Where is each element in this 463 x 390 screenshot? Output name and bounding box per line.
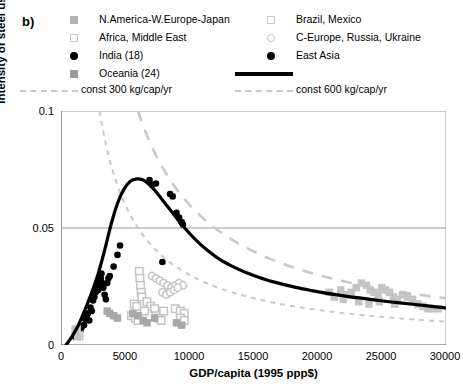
legend-label: const 300 kg/cap/yr xyxy=(81,84,172,95)
legend-label: C-Europe, Russia, Ukraine xyxy=(296,32,421,43)
legend-label: Oceania (24) xyxy=(99,68,160,79)
xtick-label-25000: 25000 xyxy=(351,350,411,362)
black-circle-icon xyxy=(267,52,275,60)
legend-label: Brazil, Mexico xyxy=(296,14,361,25)
legend-label: N.America-W.Europe-Japan xyxy=(99,14,230,25)
ytick-label-0.05: 0.05 xyxy=(8,222,54,234)
ytick-label-0.1: 0.1 xyxy=(8,105,54,117)
plot-svg xyxy=(61,111,446,345)
plot-area xyxy=(61,111,446,345)
xtick-label-20000: 20000 xyxy=(287,350,347,362)
curve-eastasia-fit xyxy=(66,179,446,345)
black-circle-icon xyxy=(70,52,78,60)
gray-filled-square-icon xyxy=(70,16,78,24)
legend-label: East Asia xyxy=(296,50,340,61)
y-axis-label: Intensity of steel use (kg/1995 ppp$) xyxy=(0,0,7,120)
xtick-label-15000: 15000 xyxy=(223,350,283,362)
open-square-icon xyxy=(70,34,78,42)
series-n-america-w-europe-japan xyxy=(71,279,442,340)
legend-label: Africa, Middle East xyxy=(99,32,187,43)
curve-const300 xyxy=(100,111,447,322)
dashed-line-icon xyxy=(235,90,293,92)
xtick-label-10000: 10000 xyxy=(159,350,219,362)
legend-label: const 600 kg/cap/yr xyxy=(296,84,387,95)
xtick-label-30000: 30000 xyxy=(415,350,463,362)
series-c-europe-russia-ukraine xyxy=(149,272,187,298)
legend-label: India (18) xyxy=(99,50,143,61)
data-points xyxy=(71,177,442,341)
figure-panel-b: b) N.America-W.Europe-Japan Africa, Midd… xyxy=(0,0,463,390)
gray-filled-square-icon xyxy=(70,70,78,78)
x-axis-label: GDP/capita (1995 ppp$) xyxy=(61,367,446,379)
open-circle-icon xyxy=(267,34,275,42)
open-square-icon xyxy=(267,16,275,24)
black-line-icon xyxy=(235,72,293,76)
xtick-label-5000: 5000 xyxy=(95,350,155,362)
chart-legend: N.America-W.Europe-Japan Africa, Middle … xyxy=(0,0,463,96)
dashed-line-icon xyxy=(20,90,78,92)
xtick-label-0: 0 xyxy=(31,350,91,362)
curve-const600 xyxy=(138,111,446,298)
